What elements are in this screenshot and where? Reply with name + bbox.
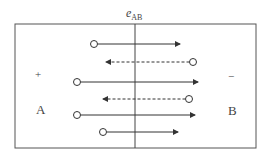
carrier-circle-icon [74, 112, 81, 119]
carrier-arrows [74, 41, 199, 136]
carrier-circle-icon [100, 129, 107, 136]
carrier-circle-icon [74, 79, 81, 86]
region-b-label: B [228, 103, 237, 119]
carrier-circle-icon [186, 96, 193, 103]
carrier-circle-icon [190, 59, 197, 66]
region-a-label: A [36, 102, 45, 118]
carrier-circle-icon [91, 41, 98, 48]
plus-polarity: + [35, 68, 41, 80]
minus-polarity: − [228, 70, 234, 82]
